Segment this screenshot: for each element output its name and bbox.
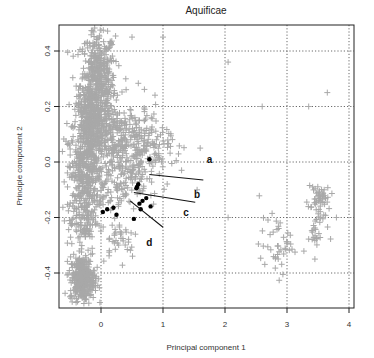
highlighted-point [132, 217, 136, 221]
y-axis-label: Principle component 2 [15, 126, 24, 206]
highlighted-point [147, 157, 151, 161]
annotation-label-a: a [207, 154, 213, 165]
highlighted-point [136, 182, 140, 186]
highlighted-point [114, 213, 118, 217]
scatter-chart: Aquificae abcd 01234 -0.4-0.20.00.20.4 P… [0, 0, 374, 358]
highlighted-point [137, 201, 141, 205]
highlighted-point [148, 204, 152, 208]
highlighted-point [144, 196, 148, 200]
x-tick-label: 4 [347, 320, 352, 329]
x-axis-label: Principal component 1 [166, 343, 246, 352]
y-axis: -0.4-0.20.00.20.4 [43, 45, 59, 280]
annotation-label-d: d [146, 237, 152, 248]
y-tick-label: 0.2 [43, 100, 52, 112]
annotation-line-d [130, 201, 163, 227]
chart-title: Aquificae [185, 5, 227, 16]
x-axis: 01234 [99, 308, 352, 329]
highlighted-point [101, 210, 105, 214]
x-tick-label: 0 [99, 320, 104, 329]
x-tick-label: 1 [161, 320, 166, 329]
highlighted-point [111, 206, 115, 210]
y-tick-label: -0.2 [43, 210, 52, 224]
annotation-line-b [149, 174, 203, 180]
y-tick-label: 0.4 [43, 45, 52, 57]
y-tick-label: -0.4 [43, 266, 52, 280]
y-tick-label: 0.0 [43, 156, 52, 168]
x-tick-label: 2 [223, 320, 228, 329]
annotation-label-b: b [194, 189, 200, 200]
x-tick-label: 3 [285, 320, 290, 329]
background-points [59, 25, 339, 307]
highlighted-point [134, 186, 138, 190]
annotation-label-c: c [183, 207, 189, 218]
highlighted-point [105, 207, 109, 211]
